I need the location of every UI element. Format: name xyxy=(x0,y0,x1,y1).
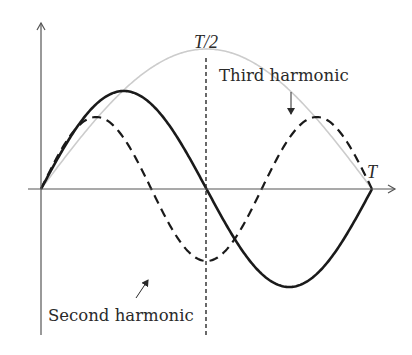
half-period-label: T/2 xyxy=(194,32,218,52)
second-harmonic-pointer-arrow xyxy=(136,280,148,298)
period-label: T xyxy=(367,162,379,182)
third-harmonic-label: Third harmonic xyxy=(219,66,349,85)
harmonics-diagram: T/2 T Third harmonic Second harmonic xyxy=(0,0,412,355)
second-harmonic-label: Second harmonic xyxy=(48,306,194,325)
